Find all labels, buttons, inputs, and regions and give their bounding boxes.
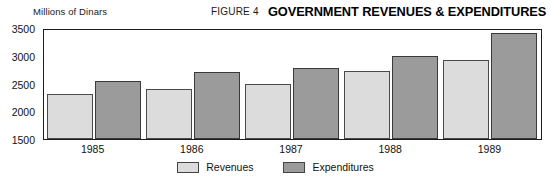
bar-expenditures-1985 [95, 81, 141, 139]
y-axis-tick-label: 2000 [12, 107, 35, 118]
bar-expenditures-1988 [392, 56, 438, 139]
y-axis-tick-label: 3500 [12, 24, 35, 35]
y-axis: 15002000250030003500 [0, 29, 40, 140]
bar-revenues-1989 [443, 60, 489, 139]
bar-revenues-1986 [146, 89, 192, 139]
bar-revenues-1987 [245, 84, 291, 139]
bar-revenues-1988 [344, 71, 390, 139]
legend-entry: Revenues [177, 161, 253, 173]
bar-revenues-1985 [47, 94, 93, 139]
legend-label: Revenues [206, 161, 253, 173]
x-axis: 19851986198719881989 [43, 143, 542, 159]
page-title: GOVERNMENT REVENUES & EXPENDITURES [268, 4, 546, 19]
legend-swatch-revenues [177, 162, 199, 173]
bar-expenditures-1987 [293, 68, 339, 139]
figure-number-label: FIGURE 4 [211, 6, 259, 17]
x-axis-tick-label: 1985 [81, 143, 104, 155]
bar-expenditures-1986 [194, 72, 240, 139]
x-axis-tick-label: 1989 [478, 143, 501, 155]
y-axis-unit-label: Millions of Dinars [33, 6, 107, 17]
y-axis-tick-label: 3000 [12, 52, 35, 63]
x-axis-tick-label: 1986 [180, 143, 203, 155]
y-axis-tick-label: 2500 [12, 79, 35, 90]
chart-legend: RevenuesExpenditures [0, 161, 551, 173]
x-axis-tick-label: 1987 [279, 143, 302, 155]
legend-label: Expenditures [312, 161, 373, 173]
plot-area [44, 30, 540, 139]
figure-container: Millions of Dinars FIGURE 4 GOVERNMENT R… [0, 0, 551, 184]
bar-expenditures-1989 [491, 33, 537, 139]
legend-entry: Expenditures [283, 161, 373, 173]
legend-swatch-expenditures [283, 162, 305, 173]
y-axis-tick-label: 1500 [12, 135, 35, 146]
x-axis-tick-label: 1988 [379, 143, 402, 155]
